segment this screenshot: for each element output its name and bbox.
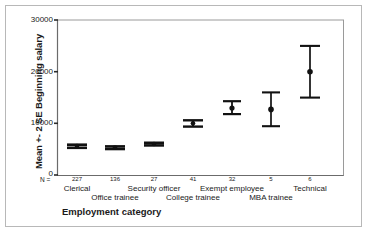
mean-marker — [307, 69, 313, 75]
error-bar-plot — [0, 0, 367, 237]
mean-marker — [152, 142, 157, 147]
data-points-group — [67, 46, 320, 150]
error-bar-mba-trainee — [262, 92, 280, 126]
mean-marker — [113, 145, 118, 150]
error-bar-college-trainee — [183, 120, 203, 126]
mean-marker — [191, 121, 196, 126]
error-bar-office-trainee — [105, 145, 125, 150]
error-bar-clerical — [67, 144, 87, 149]
mean-marker — [75, 144, 80, 149]
figure-root: Mean +- 2 SE Beginning salary Employment… — [0, 0, 367, 237]
mean-marker — [229, 105, 234, 110]
error-bar-exempt-employee — [223, 101, 241, 114]
plot-wrapper: Mean +- 2 SE Beginning salary Employment… — [0, 0, 367, 237]
error-bar-technical — [300, 46, 320, 98]
error-bar-security-officer — [144, 142, 164, 147]
mean-marker — [268, 107, 274, 113]
